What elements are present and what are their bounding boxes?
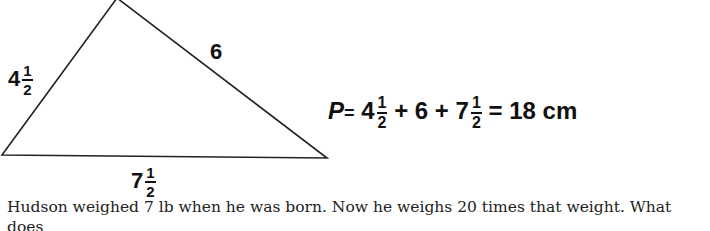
side-label-base: 712 <box>131 165 156 199</box>
word-problem: Hudson weighed 7 lb when he was born. No… <box>7 197 707 231</box>
side-label-right: 6 <box>210 41 222 63</box>
side-label-left: 412 <box>8 63 33 97</box>
problem-line-1: Hudson weighed 7 lb when he was born. No… <box>7 197 707 231</box>
perimeter-formula: P= 412 + 6 + 712 = 18 cm <box>328 95 577 131</box>
